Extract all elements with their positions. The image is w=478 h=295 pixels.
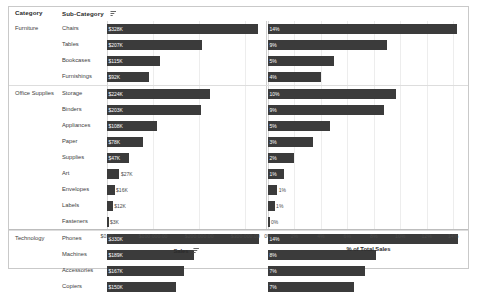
- subcategory-label[interactable]: Labels: [62, 202, 106, 209]
- sales-pane: $203K: [107, 102, 266, 118]
- percent-bar[interactable]: [268, 24, 457, 34]
- sales-pane: $328K: [107, 21, 266, 37]
- sales-pane: $92K: [107, 69, 266, 85]
- sales-bar[interactable]: [107, 201, 113, 211]
- percent-axis-tick: 14%: [448, 233, 458, 239]
- chart-rows: FurnitureChairs$328K14%Tables$207K9%Book…: [9, 21, 468, 229]
- sales-bar-label: $27K: [120, 171, 133, 177]
- percent-bar[interactable]: [268, 282, 354, 292]
- percent-bar-label: 9%: [268, 42, 277, 48]
- sales-bar-label: $16K: [115, 187, 128, 193]
- column-header-category[interactable]: Category: [15, 9, 43, 16]
- sales-pane: $207K: [107, 37, 266, 53]
- sales-bar[interactable]: [107, 24, 258, 34]
- percent-axis-tick: 4%: [317, 233, 325, 239]
- percent-axis-tick: 8%: [370, 233, 378, 239]
- percent-bar[interactable]: [268, 201, 275, 211]
- sort-descending-icon[interactable]: [110, 10, 117, 17]
- percent-pane: 4%: [268, 69, 469, 85]
- sales-bar-label: $92K: [107, 74, 120, 80]
- percent-pane: 1%: [268, 198, 469, 214]
- sales-pane: $115K: [107, 53, 266, 69]
- table-row[interactable]: Fasteners$3K0%: [9, 214, 468, 230]
- subcategory-label[interactable]: Furnishings: [62, 73, 106, 80]
- table-row[interactable]: Copiers$150K7%: [9, 279, 468, 295]
- percent-bar-label: 10%: [268, 91, 280, 97]
- subcategory-label[interactable]: Appliances: [62, 122, 106, 129]
- percent-bar[interactable]: [268, 40, 387, 50]
- percent-bar-label: 1%: [278, 187, 286, 193]
- category-label[interactable]: Office Supplies: [15, 90, 61, 97]
- sales-axis-title[interactable]: Sales: [173, 246, 199, 254]
- percent-pane: 0%: [268, 214, 469, 230]
- percent-bar-label: 5%: [268, 58, 277, 64]
- percent-pane: 1%: [268, 182, 469, 198]
- table-row[interactable]: Supplies$47K2%: [9, 150, 468, 166]
- percent-bar[interactable]: [268, 89, 396, 99]
- sales-pane: $12K: [107, 198, 266, 214]
- table-row[interactable]: Appliances$108K5%: [9, 118, 468, 134]
- percent-axis-tick: 10%: [395, 233, 405, 239]
- sales-axis-tick: $200,000.00: [185, 233, 214, 239]
- percent-axis-tick: 12%: [421, 233, 431, 239]
- percent-bar[interactable]: [268, 56, 334, 66]
- column-header-subcategory[interactable]: Sub-Category: [62, 9, 117, 17]
- subcategory-label[interactable]: Binders: [62, 106, 106, 113]
- percent-pane: 10%: [268, 86, 469, 102]
- subcategory-label[interactable]: Envelopes: [62, 186, 106, 193]
- table-row[interactable]: Art$27K1%: [9, 166, 468, 182]
- axes-row: $0.00$100,000.00$200,000.00$300,000.000%…: [9, 229, 468, 270]
- viz-container: Category Sub-Category FurnitureChairs$32…: [8, 6, 469, 269]
- table-row[interactable]: Bookcases$115K5%: [9, 53, 468, 69]
- table-row[interactable]: Envelopes$16K1%: [9, 182, 468, 198]
- percent-bar[interactable]: [268, 121, 330, 131]
- sort-descending-icon[interactable]: [193, 247, 200, 254]
- table-row[interactable]: Binders$203K9%: [9, 102, 468, 118]
- percent-bar[interactable]: [268, 105, 384, 115]
- table-row[interactable]: Tables$207K9%: [9, 37, 468, 53]
- sales-bar-label: $207K: [107, 42, 123, 48]
- category-label[interactable]: Furniture: [15, 25, 61, 32]
- sales-bar-label: $47K: [107, 155, 120, 161]
- table-row[interactable]: Paper$78K3%: [9, 134, 468, 150]
- sales-axis-tick: $100,000.00: [139, 233, 168, 239]
- sales-pane: $150K: [107, 279, 266, 295]
- sales-pane: $78K: [107, 134, 266, 150]
- sales-axis-title-label: Sales: [173, 248, 188, 254]
- table-row[interactable]: FurnitureChairs$328K14%: [9, 21, 468, 37]
- subcategory-label[interactable]: Art: [62, 170, 106, 177]
- subcategory-label[interactable]: Bookcases: [62, 57, 106, 64]
- sales-bar-label: $108K: [107, 123, 123, 129]
- percent-pane: 7%: [268, 279, 469, 295]
- percent-pane: 5%: [268, 118, 469, 134]
- percent-pane: 9%: [268, 102, 469, 118]
- sales-bar-label: $12K: [113, 203, 126, 209]
- subcategory-label[interactable]: Tables: [62, 41, 106, 48]
- percent-pane: 14%: [268, 21, 469, 37]
- percent-bar-label: 2%: [268, 155, 277, 161]
- sales-pane: $47K: [107, 150, 266, 166]
- subcategory-label[interactable]: Storage: [62, 90, 106, 97]
- table-row[interactable]: Office SuppliesStorage$224K10%: [9, 85, 468, 102]
- sales-pane: $16K: [107, 182, 266, 198]
- sales-axis-tick: $0.00: [101, 233, 114, 239]
- sales-axis-tick: $300,000.00: [231, 233, 260, 239]
- sales-bar[interactable]: [107, 169, 119, 179]
- percent-axis-tick: 0%: [264, 233, 272, 239]
- sales-bar-label: $203K: [107, 107, 123, 113]
- sales-bar-label: $328K: [107, 26, 123, 32]
- table-row[interactable]: Furnishings$92K4%: [9, 69, 468, 85]
- percent-bar-label: 9%: [268, 107, 277, 113]
- subcategory-label[interactable]: Copiers: [62, 283, 106, 290]
- percent-bar-label: 5%: [268, 123, 277, 129]
- subcategory-label[interactable]: Fasteners: [62, 218, 106, 225]
- percent-axis-title[interactable]: % of Total Sales: [346, 246, 390, 252]
- percent-bar[interactable]: [268, 185, 277, 195]
- subcategory-label[interactable]: Paper: [62, 138, 106, 145]
- subcategory-label[interactable]: Supplies: [62, 154, 106, 161]
- table-row[interactable]: Labels$12K1%: [9, 198, 468, 214]
- sales-bar[interactable]: [107, 185, 115, 195]
- sales-pane: $3K: [107, 214, 266, 230]
- sales-pane: $108K: [107, 118, 266, 134]
- subcategory-label[interactable]: Chairs: [62, 25, 106, 32]
